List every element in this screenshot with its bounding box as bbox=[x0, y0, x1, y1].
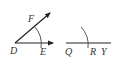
label-y: Y bbox=[101, 46, 108, 57]
label-d: D bbox=[9, 45, 18, 56]
label-e: E bbox=[39, 46, 46, 57]
arc-ef bbox=[34, 26, 41, 48]
label-r: R bbox=[89, 46, 96, 57]
arc-r bbox=[81, 27, 88, 48]
label-f: F bbox=[27, 13, 35, 24]
label-q: Q bbox=[65, 46, 73, 57]
angle-construction-diagram: D E F Q R Y bbox=[0, 0, 117, 65]
ray-qy-construction: Q R Y bbox=[65, 27, 111, 57]
angle-edf: D E F bbox=[9, 13, 53, 57]
